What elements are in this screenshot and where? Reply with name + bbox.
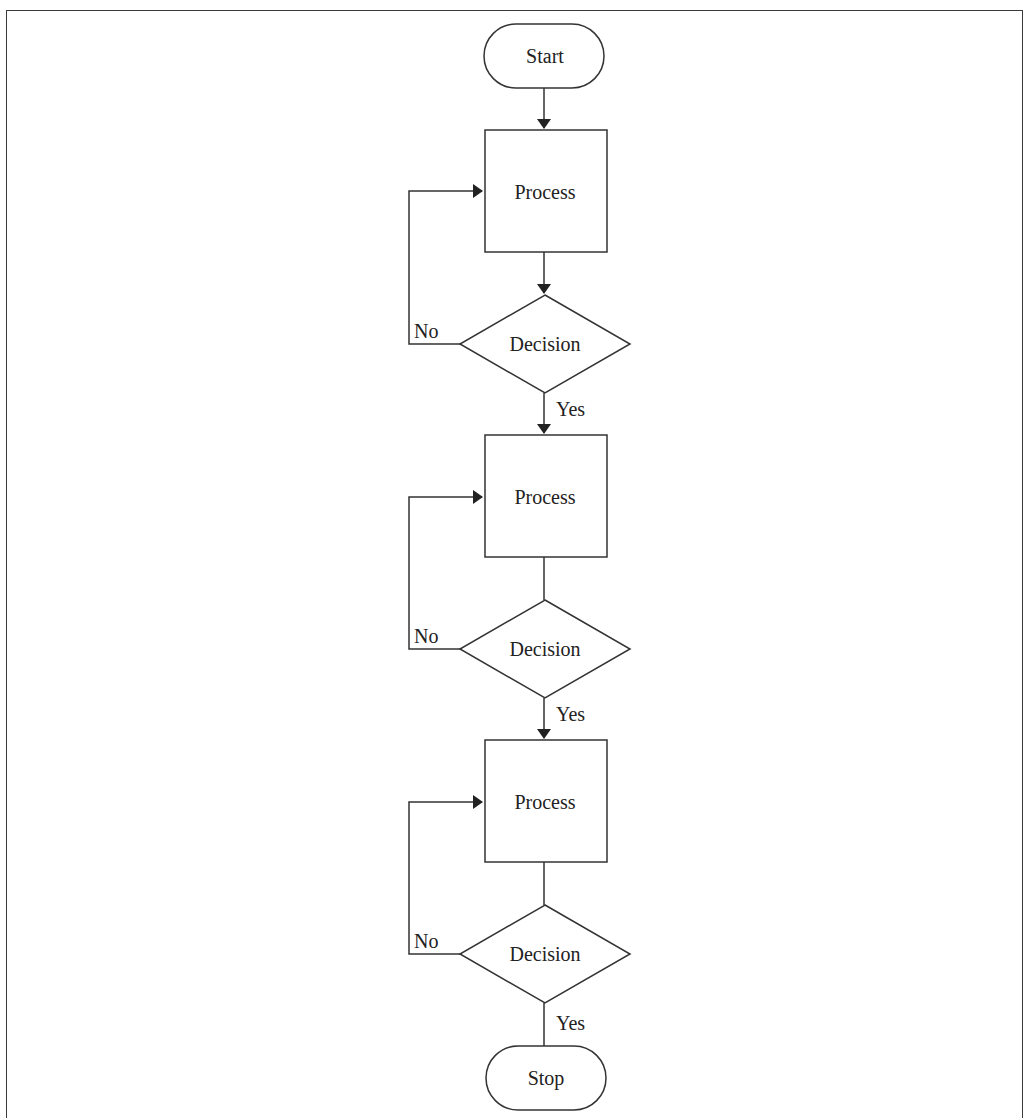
process-label-3: Process [514,791,575,813]
process-label-2: Process [514,486,575,508]
decision-label-2: Decision [509,638,580,660]
decision-label-3: Decision [509,943,580,965]
start-label: Start [526,45,564,67]
stop-label: Stop [528,1067,565,1090]
no-label-3: No [414,930,438,952]
no-label-1: No [414,320,438,342]
no-label-2: No [414,625,438,647]
yes-label-1: Yes [556,398,585,420]
process-label-1: Process [514,181,575,203]
yes-label-2: Yes [556,703,585,725]
decision-label-1: Decision [509,333,580,355]
flowchart: Start Process Decision No Yes Process De… [0,0,1027,1120]
yes-label-3: Yes [556,1012,585,1034]
